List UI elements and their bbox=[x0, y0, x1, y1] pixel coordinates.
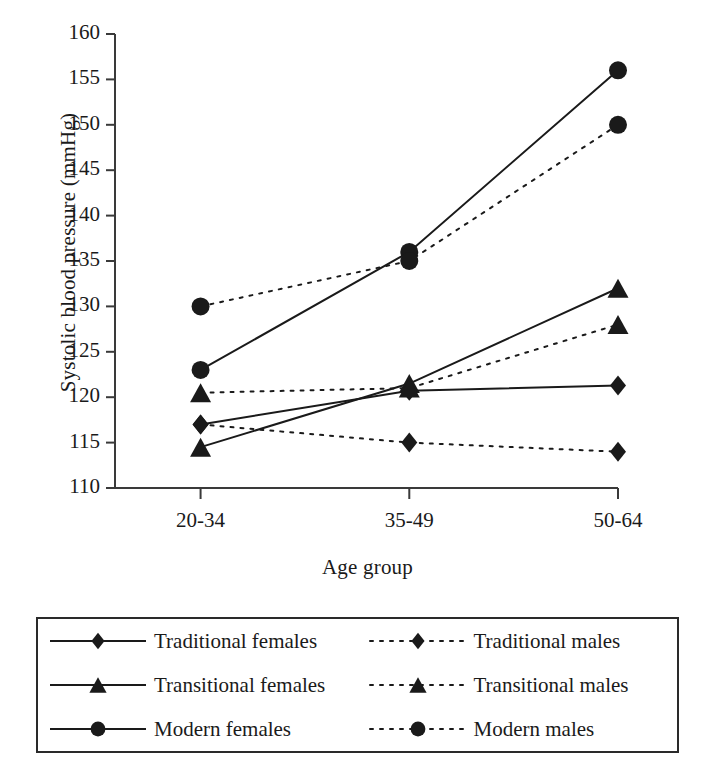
data-point-diamond bbox=[610, 375, 626, 395]
y-tick-label: 160 bbox=[40, 20, 100, 45]
series-transitional-males bbox=[190, 315, 628, 402]
series-modern-males bbox=[192, 116, 627, 316]
y-tick-label: 155 bbox=[40, 65, 100, 90]
legend-item[interactable]: Transitional males bbox=[358, 673, 678, 698]
legend-item[interactable]: Traditional males bbox=[358, 629, 678, 654]
legend-swatch-triangle-dotted bbox=[366, 674, 470, 696]
axes-layer bbox=[106, 34, 618, 499]
legend-grid: Traditional femalesTraditional malesTran… bbox=[38, 619, 677, 751]
legend-swatch-circle-solid bbox=[46, 718, 150, 740]
legend-swatch-diamond-dotted bbox=[366, 630, 470, 652]
y-tick-label: 120 bbox=[40, 383, 100, 408]
legend-swatch-circle-dotted bbox=[366, 718, 470, 740]
legend-label: Transitional females bbox=[150, 673, 325, 698]
data-point-circle bbox=[192, 297, 210, 315]
y-tick-label: 115 bbox=[40, 429, 100, 454]
data-point-circle bbox=[609, 116, 627, 134]
y-tick-label: 110 bbox=[40, 474, 100, 499]
legend-swatch-triangle-solid bbox=[46, 674, 150, 696]
series-layer bbox=[190, 61, 628, 461]
series-line bbox=[201, 70, 618, 370]
series-transitional-females bbox=[190, 279, 628, 457]
x-tick-label: 35-49 bbox=[329, 508, 489, 533]
series-line bbox=[201, 125, 618, 307]
y-tick-label: 130 bbox=[40, 292, 100, 317]
data-point-triangle bbox=[608, 279, 629, 298]
y-tick-label: 125 bbox=[40, 338, 100, 363]
chart-legend: Traditional femalesTraditional malesTran… bbox=[36, 617, 679, 753]
legend-label: Traditional females bbox=[150, 629, 317, 654]
data-point-diamond bbox=[610, 442, 626, 462]
series-modern-females bbox=[192, 61, 627, 379]
legend-item[interactable]: Modern females bbox=[38, 717, 358, 742]
legend-label: Traditional males bbox=[470, 629, 621, 654]
x-tick-label: 20-34 bbox=[121, 508, 281, 533]
line-chart-figure: Systolic blood pressure (mmHg) Age group… bbox=[0, 0, 725, 605]
legend-label: Modern females bbox=[150, 717, 291, 742]
data-point-triangle bbox=[190, 383, 211, 402]
legend-item[interactable]: Traditional females bbox=[38, 629, 358, 654]
legend-item[interactable]: Modern males bbox=[358, 717, 678, 742]
data-point-circle bbox=[400, 252, 418, 270]
data-point-triangle bbox=[608, 315, 629, 334]
data-point-diamond bbox=[193, 414, 209, 434]
legend-swatch-diamond-solid bbox=[46, 630, 150, 652]
x-axis-title: Age group bbox=[115, 555, 620, 580]
data-point-triangle bbox=[190, 438, 211, 457]
legend-item[interactable]: Transitional females bbox=[38, 673, 358, 698]
y-tick-label: 145 bbox=[40, 156, 100, 181]
series-line bbox=[201, 288, 618, 447]
data-point-diamond bbox=[401, 433, 417, 453]
y-tick-label: 140 bbox=[40, 202, 100, 227]
legend-label: Transitional males bbox=[470, 673, 629, 698]
data-point-circle bbox=[609, 61, 627, 79]
x-tick-label: 50-64 bbox=[538, 508, 698, 533]
chart-page: Systolic blood pressure (mmHg) Age group… bbox=[0, 0, 725, 779]
data-point-circle bbox=[192, 361, 210, 379]
legend-label: Modern males bbox=[470, 717, 595, 742]
y-tick-label: 135 bbox=[40, 247, 100, 272]
y-tick-label: 150 bbox=[40, 111, 100, 136]
series-traditional-males bbox=[193, 414, 626, 461]
